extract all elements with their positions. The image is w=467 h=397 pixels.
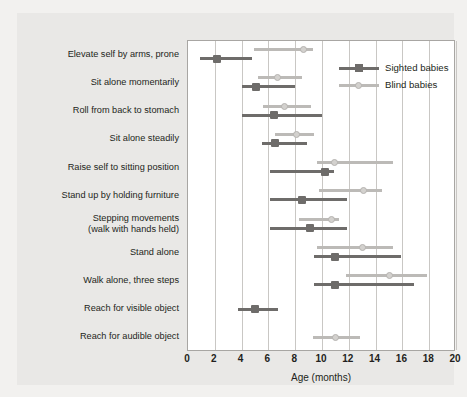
median-marker-sighted bbox=[298, 196, 306, 204]
chart-panel: Elevate self by arms, proneSit alone mom… bbox=[17, 13, 454, 385]
category-label: Roll from back to stomach bbox=[73, 105, 179, 116]
range-bar-blind bbox=[317, 246, 393, 249]
x-tick-label: 18 bbox=[423, 353, 434, 364]
chart-row bbox=[188, 211, 454, 239]
median-marker-sighted bbox=[331, 253, 339, 261]
category-label: Raise self to sitting position bbox=[68, 162, 179, 173]
median-marker-blind bbox=[300, 46, 307, 53]
chart-row bbox=[188, 182, 454, 210]
figure: Elevate self by arms, proneSit alone mom… bbox=[0, 0, 467, 397]
median-marker-blind bbox=[386, 272, 393, 279]
category-label: Stepping movements (walk with hands held… bbox=[88, 213, 179, 235]
chart-row bbox=[188, 239, 454, 267]
x-tick-label: 12 bbox=[342, 353, 353, 364]
category-label: Walk alone, three steps bbox=[83, 275, 179, 286]
x-tick-label: 14 bbox=[369, 353, 380, 364]
legend-item-blind: Blind babies bbox=[339, 77, 451, 94]
median-marker-blind bbox=[360, 187, 367, 194]
legend-label-blind: Blind babies bbox=[385, 77, 437, 93]
median-marker-sighted bbox=[271, 139, 279, 147]
category-label: Sit alone steadily bbox=[110, 133, 179, 144]
chart-row bbox=[188, 324, 454, 352]
median-marker-sighted bbox=[306, 224, 314, 232]
category-label: Elevate self by arms, prone bbox=[68, 49, 179, 60]
legend-item-sighted: Sighted babies bbox=[339, 60, 451, 77]
range-bar-blind bbox=[319, 189, 382, 192]
range-bar-sighted bbox=[200, 57, 252, 60]
x-axis-title: Age (months) bbox=[187, 372, 455, 383]
chart-row bbox=[188, 295, 454, 323]
median-marker-sighted bbox=[251, 305, 259, 313]
range-bar-sighted bbox=[242, 85, 296, 88]
x-tick-label: 0 bbox=[184, 353, 190, 364]
chart-row bbox=[188, 267, 454, 295]
x-tick-label: 8 bbox=[291, 353, 297, 364]
range-bar-blind bbox=[317, 161, 393, 164]
x-tick-label: 6 bbox=[265, 353, 271, 364]
gridline bbox=[456, 41, 457, 350]
x-tick-label: 16 bbox=[396, 353, 407, 364]
category-label: Reach for visible object bbox=[84, 303, 179, 314]
median-marker-sighted bbox=[321, 168, 329, 176]
legend-label-sighted: Sighted babies bbox=[385, 60, 448, 76]
median-marker-blind bbox=[293, 131, 300, 138]
chart-row bbox=[188, 98, 454, 126]
chart-row bbox=[188, 154, 454, 182]
range-bar-sighted bbox=[314, 283, 415, 286]
range-bar-sighted bbox=[262, 142, 308, 145]
category-label: Sit alone momentarily bbox=[91, 77, 179, 88]
legend-marker-sighted-icon bbox=[355, 64, 363, 72]
median-marker-blind bbox=[332, 334, 339, 341]
legend-marker-blind-icon bbox=[355, 82, 362, 89]
x-tick-label: 2 bbox=[211, 353, 217, 364]
category-label: Reach for audible object bbox=[80, 331, 179, 342]
category-label: Stand up by holding furniture bbox=[62, 190, 179, 201]
range-bar-sighted bbox=[270, 198, 348, 201]
median-marker-blind bbox=[281, 103, 288, 110]
median-marker-sighted bbox=[252, 83, 260, 91]
range-bar-sighted bbox=[314, 255, 401, 258]
chart-legend: Sighted babies Blind babies bbox=[339, 60, 451, 94]
category-label: Stand alone bbox=[130, 247, 179, 258]
median-marker-blind bbox=[359, 244, 366, 251]
x-tick-label: 10 bbox=[315, 353, 326, 364]
x-tick-label: 4 bbox=[238, 353, 244, 364]
x-tick-label: 20 bbox=[449, 353, 460, 364]
median-marker-blind bbox=[331, 159, 338, 166]
median-marker-sighted bbox=[331, 281, 339, 289]
median-marker-blind bbox=[274, 74, 281, 81]
median-marker-blind bbox=[328, 216, 335, 223]
range-bar-sighted bbox=[242, 114, 322, 117]
x-axis-ticks: 02468101214161820 bbox=[187, 353, 455, 367]
median-marker-sighted bbox=[213, 55, 221, 63]
chart-row bbox=[188, 126, 454, 154]
category-axis-labels: Elevate self by arms, proneSit alone mom… bbox=[37, 40, 183, 351]
median-marker-sighted bbox=[270, 111, 278, 119]
